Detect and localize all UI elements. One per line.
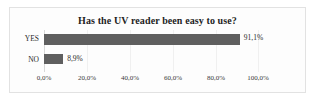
plot-area: YES 91,1% NO 8,9% bbox=[44, 30, 259, 72]
x-tick-label: 20,0% bbox=[78, 74, 96, 82]
bar-row: NO 8,9% bbox=[44, 51, 259, 72]
bar-value-no: 8,9% bbox=[67, 54, 83, 63]
bar-value-yes: 91,1% bbox=[244, 33, 263, 42]
chart-figure: Has the UV reader been easy to use? YES … bbox=[9, 7, 306, 93]
x-tick-label: 60,0% bbox=[164, 74, 182, 82]
x-tick-label: 0,0% bbox=[37, 74, 52, 82]
bar-yes[interactable] bbox=[44, 34, 240, 45]
bar-no[interactable] bbox=[44, 54, 63, 64]
category-label-yes: YES bbox=[25, 34, 39, 43]
chart-title: Has the UV reader been easy to use? bbox=[10, 15, 305, 26]
x-axis-tick-labels: 0,0% 20,0% 40,0% 60,0% 80,0% 100,0% bbox=[44, 74, 259, 88]
bar-row: YES 91,1% bbox=[44, 30, 259, 51]
category-label-no: NO bbox=[28, 55, 39, 64]
x-tick-label: 100,0% bbox=[247, 74, 269, 82]
x-tick-label: 40,0% bbox=[121, 74, 139, 82]
x-tick-label: 80,0% bbox=[207, 74, 225, 82]
